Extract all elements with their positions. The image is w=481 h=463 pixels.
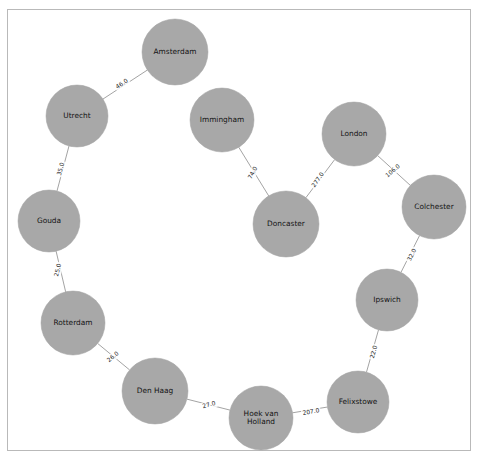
graph-node[interactable]: Colchester xyxy=(402,175,466,239)
edge-weight-label-group: 106.0 xyxy=(383,162,403,181)
node-label: Den Haag xyxy=(137,386,174,395)
edge-weight-label-group: 27.0 xyxy=(200,399,218,411)
graph-node[interactable]: Hoek vanHolland xyxy=(229,386,293,450)
network-graph-figure: AmsterdamUtrechtGoudaRotterdamDen HaagHo… xyxy=(0,0,481,463)
graph-node[interactable]: Amsterdam xyxy=(142,19,208,85)
graph-canvas: AmsterdamUtrechtGoudaRotterdamDen HaagHo… xyxy=(0,0,481,463)
node-label: Ipswich xyxy=(373,295,401,304)
edge-weight-label-group: 207.0 xyxy=(301,406,322,417)
node-label: Gouda xyxy=(37,216,61,225)
node-label: Utrecht xyxy=(63,111,90,120)
edge-weight-label-group: 277.0 xyxy=(309,170,327,191)
node-label: Doncaster xyxy=(267,219,306,228)
edge-weight-label-group: 32.0 xyxy=(405,246,419,264)
graph-node[interactable]: Ipswich xyxy=(356,269,418,331)
graph-node[interactable]: Gouda xyxy=(18,190,80,252)
node-label: Immingham xyxy=(200,115,244,124)
edge-weight-label-group: 46.0 xyxy=(113,76,131,91)
nodes-layer: AmsterdamUtrechtGoudaRotterdamDen HaagHo… xyxy=(18,19,466,450)
graph-node[interactable]: Rotterdam xyxy=(41,291,105,355)
node-label: Rotterdam xyxy=(54,318,93,327)
graph-node[interactable]: Utrecht xyxy=(46,85,108,147)
graph-node[interactable]: Den Haag xyxy=(122,358,188,424)
graph-node[interactable]: Felixstowe xyxy=(327,371,389,433)
node-label: London xyxy=(340,129,367,138)
graph-node[interactable]: Immingham xyxy=(190,88,254,152)
node-label: Felixstowe xyxy=(339,397,378,406)
node-label: Amsterdam xyxy=(154,47,197,56)
node-label: Holland xyxy=(247,417,275,426)
graph-node[interactable]: London xyxy=(322,102,386,166)
edge-weight-label-group: 22.0 xyxy=(368,343,380,361)
graph-node[interactable]: Doncaster xyxy=(253,191,319,257)
node-label: Colchester xyxy=(414,202,454,211)
edge-weight-label-group: 35.0 xyxy=(55,160,67,178)
